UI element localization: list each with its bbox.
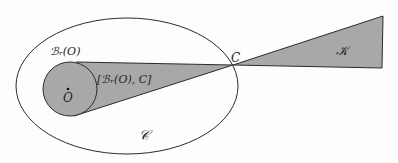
cone-triangle [233,16,383,68]
center-point [67,88,70,91]
convex-set-label: 𝒞 [139,128,149,142]
hull-label: [ℬᵣ(O), C] [97,74,151,85]
diagram-figure [0,0,398,163]
cone-label: 𝒦 [336,44,348,57]
point-c-label: C [231,52,240,64]
diagram-canvas: ℬᵣ(O) [ℬᵣ(O), C] O C 𝒦 𝒞 [0,0,398,163]
center-label: O [63,92,73,104]
ball-label: ℬᵣ(O) [50,46,80,57]
ball-circle [43,62,97,116]
